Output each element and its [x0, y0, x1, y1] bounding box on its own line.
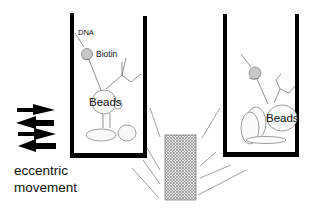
left-tube-right-wall: [143, 16, 147, 158]
biotin-label: Biotin: [96, 49, 118, 59]
caption-movement: movement: [14, 180, 77, 195]
arrow-left-icon: [18, 139, 56, 152]
antibody-icon-right: [274, 74, 295, 103]
crosshatched-block-icon: [165, 135, 196, 200]
right-tube-right-wall: [295, 14, 299, 156]
left-tube-bottom: [70, 153, 147, 158]
biotin-icon: [82, 49, 93, 60]
beads-label-right: Beads: [266, 112, 299, 124]
bead-cluster-icon: [86, 129, 116, 141]
caption-eccentric: eccentric: [14, 163, 68, 178]
arrow-left-icon: [16, 116, 54, 129]
beads-label-left: Beads: [89, 96, 122, 108]
eccentric-arrows: [16, 104, 56, 152]
left-tube-contents: DNA Biotin Beads: [75, 28, 141, 141]
antibody-icon: [106, 58, 141, 89]
right-tube-bottom: [223, 152, 299, 157]
right-tube-left-wall: [223, 14, 227, 156]
diagram-canvas: DNA Biotin Beads Beads: [0, 0, 315, 214]
left-tube-left-wall: [70, 13, 74, 158]
arrow-right-icon: [18, 128, 56, 140]
linker-line-icon: [89, 60, 101, 90]
right-tube-contents: Beads: [241, 54, 299, 144]
biotin-icon-right: [249, 67, 261, 79]
arrow-right-icon: [17, 104, 55, 115]
dna-label: DNA: [78, 28, 94, 37]
